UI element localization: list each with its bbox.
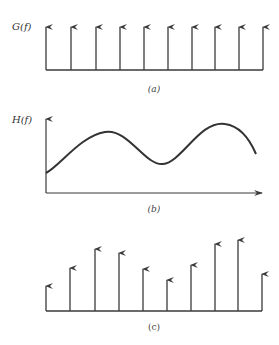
panel-c-impulses [46, 240, 262, 311]
panel-a-caption: (a) [148, 84, 161, 94]
panel-a-ylabel: G(f) [12, 21, 32, 32]
panel-c-sampled-spectrum: (c) [46, 240, 262, 332]
panel-a-impulses [46, 27, 263, 70]
panel-b-caption: (b) [148, 204, 161, 214]
sampling-diagram: G(f) (a) H(f) (b) (c) [0, 0, 279, 345]
panel-b-filter-response: H(f) (b) [11, 114, 262, 214]
panel-c-caption: (c) [148, 322, 160, 332]
panel-b-ylabel: H(f) [11, 114, 32, 125]
panel-b-curve [46, 124, 256, 173]
panel-a-impulse-train: G(f) (a) [12, 21, 263, 94]
